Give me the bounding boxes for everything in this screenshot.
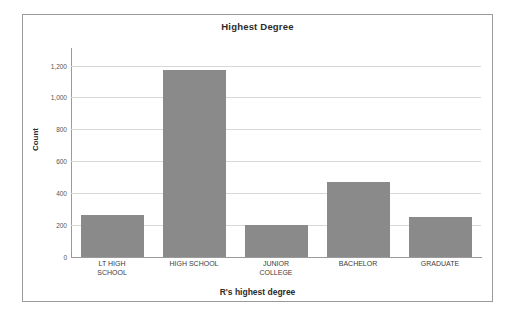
gridline	[71, 193, 481, 194]
y-axis-tick-label: 600	[25, 158, 67, 165]
chart-title: Highest Degree	[23, 21, 492, 32]
gridline	[71, 161, 481, 162]
x-axis-tick-label: HIGH SCHOOL	[153, 260, 235, 269]
bar[interactable]	[163, 70, 226, 257]
gridline	[71, 97, 481, 98]
y-axis-tick-label: 800	[25, 126, 67, 133]
x-axis-tick-label: GRADUATE	[399, 260, 481, 269]
y-axis-tick-label: 1,000	[25, 94, 67, 101]
x-axis-tick-label: LT HIGH SCHOOL	[71, 260, 153, 277]
y-axis-tick-label: 400	[25, 190, 67, 197]
x-axis-title: R's highest degree	[23, 287, 492, 297]
gridline	[71, 66, 481, 67]
chart-frame: Highest Degree Count 02004006008001,0001…	[22, 14, 493, 302]
bar[interactable]	[327, 182, 390, 257]
gridline	[71, 129, 481, 130]
y-axis-tick-labels: 02004006008001,0001,200	[23, 56, 67, 257]
y-axis-tick-label: 200	[25, 222, 67, 229]
x-axis-line	[71, 257, 482, 258]
bar[interactable]	[81, 215, 144, 257]
bar[interactable]	[409, 217, 472, 257]
x-axis-tick-labels: LT HIGH SCHOOLHIGH SCHOOLJUNIOR COLLEGEB…	[71, 260, 482, 286]
x-axis-tick-label: JUNIOR COLLEGE	[235, 260, 317, 277]
bar[interactable]	[245, 225, 308, 257]
plot-area	[71, 56, 481, 257]
x-axis-tick-label: BACHELOR	[317, 260, 399, 269]
y-axis-tick-label: 0	[25, 254, 67, 261]
y-axis-tick-label: 1,200	[25, 62, 67, 69]
